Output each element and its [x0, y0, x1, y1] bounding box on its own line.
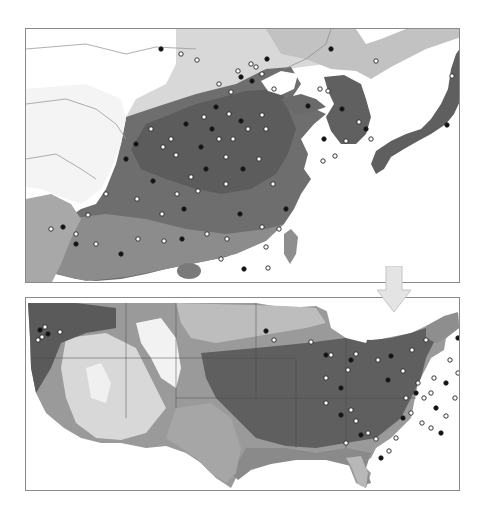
site-marker [344, 441, 348, 445]
site-marker [318, 87, 322, 91]
site-marker [374, 437, 378, 441]
site-marker [239, 119, 243, 123]
site-marker [339, 413, 343, 417]
site-marker [321, 159, 325, 163]
site-marker [124, 157, 128, 161]
site-marker [349, 408, 353, 412]
site-marker [414, 391, 418, 395]
site-marker [242, 267, 246, 271]
site-marker [453, 396, 457, 400]
korea-peninsula [324, 75, 371, 144]
site-marker [205, 232, 209, 236]
site-marker [346, 368, 350, 372]
site-marker [456, 336, 460, 340]
site-marker [309, 340, 313, 344]
site-marker [379, 456, 383, 460]
site-marker [160, 212, 164, 216]
site-marker [180, 237, 184, 241]
site-marker [322, 137, 326, 141]
site-marker [444, 414, 448, 418]
site-marker [169, 137, 173, 141]
site-marker [386, 378, 390, 382]
site-marker [40, 335, 44, 339]
site-marker [339, 386, 343, 390]
site-marker [161, 145, 165, 149]
site-marker [238, 212, 242, 216]
site-marker [324, 353, 328, 357]
site-marker [260, 113, 264, 117]
site-marker [284, 207, 288, 211]
site-marker [36, 338, 40, 342]
site-marker [366, 431, 370, 435]
site-marker [189, 175, 193, 179]
site-marker [450, 74, 454, 78]
site-marker [349, 358, 353, 362]
site-marker [225, 237, 229, 241]
site-marker [389, 354, 393, 358]
site-marker [401, 369, 405, 373]
site-marker [184, 122, 188, 126]
site-marker [357, 120, 361, 124]
site-marker [387, 449, 391, 453]
site-marker [354, 419, 358, 423]
site-marker [374, 59, 378, 63]
site-marker [202, 115, 206, 119]
site-marker [159, 47, 163, 51]
site-marker [329, 47, 333, 51]
site-marker [420, 421, 424, 425]
site-marker [264, 329, 268, 333]
site-marker [424, 338, 428, 342]
site-marker [354, 352, 358, 356]
arrow-shape [377, 266, 411, 312]
site-marker [401, 416, 405, 420]
site-marker [74, 242, 78, 246]
new-england-region [426, 312, 459, 343]
manchuria-region [266, 29, 460, 79]
site-marker [49, 227, 53, 231]
site-marker [264, 245, 268, 249]
site-marker [434, 406, 438, 410]
site-marker [266, 266, 270, 270]
site-marker [210, 127, 214, 131]
site-marker [364, 127, 368, 131]
site-marker [326, 89, 330, 93]
site-marker [265, 57, 269, 61]
site-marker [340, 107, 344, 111]
site-marker [227, 112, 231, 116]
site-marker [149, 127, 153, 131]
site-marker [260, 225, 264, 229]
site-marker [422, 396, 426, 400]
taiwan [284, 229, 298, 264]
site-marker [246, 127, 250, 131]
site-marker [404, 396, 408, 400]
site-marker [134, 142, 138, 146]
site-marker [448, 358, 452, 362]
site-marker [432, 376, 436, 380]
site-marker [271, 182, 275, 186]
site-marker [344, 139, 348, 143]
site-marker [272, 87, 276, 91]
site-marker [224, 155, 228, 159]
site-marker [369, 137, 373, 141]
site-marker [410, 348, 414, 352]
site-marker [229, 90, 233, 94]
site-marker [444, 381, 448, 385]
east-asia-map-panel [25, 28, 460, 283]
site-marker [135, 197, 139, 201]
site-marker [376, 358, 380, 362]
site-marker [250, 79, 254, 83]
site-marker [175, 192, 179, 196]
site-marker [306, 104, 310, 108]
site-marker [61, 225, 65, 229]
east-asia-map [26, 29, 460, 283]
site-marker [86, 213, 90, 217]
site-marker [429, 391, 433, 395]
site-marker [94, 242, 98, 246]
site-marker [136, 237, 140, 241]
site-marker [272, 338, 276, 342]
site-marker [162, 239, 166, 243]
national-border-line [26, 44, 196, 54]
site-marker [416, 381, 420, 385]
site-marker [38, 328, 42, 332]
site-marker [394, 436, 398, 440]
